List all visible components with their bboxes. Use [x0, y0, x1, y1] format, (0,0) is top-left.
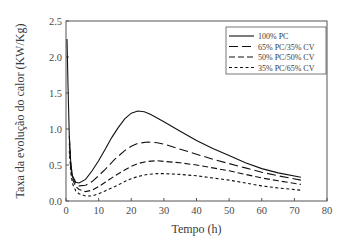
legend-label-3: 35% PC/65% CV — [258, 64, 315, 73]
x-tick-label: 10 — [93, 205, 104, 216]
legend-label-2: 50% PC/50% CV — [258, 53, 315, 62]
legend-label-0: 100% PC — [258, 32, 288, 41]
y-tick-label: 2.0 — [49, 52, 62, 63]
x-tick-label: 70 — [289, 205, 300, 216]
x-tick-label: 60 — [257, 205, 268, 216]
x-axis-label: Tempo (h) — [171, 222, 221, 236]
series-line-3 — [69, 151, 301, 196]
y-tick-label: 1.0 — [49, 124, 62, 135]
heat-evolution-chart: 010203040506070800.00.51.01.52.02.5Tempo… — [0, 0, 350, 250]
y-tick-label: 0.5 — [49, 160, 62, 171]
x-tick-label: 80 — [322, 205, 333, 216]
x-tick-label: 50 — [224, 205, 235, 216]
y-tick-label: 0.0 — [49, 196, 62, 207]
legend-label-1: 65% PC/35% CV — [258, 43, 315, 52]
x-tick-label: 0 — [63, 205, 68, 216]
y-tick-label: 2.5 — [49, 16, 62, 27]
x-tick-label: 20 — [126, 205, 137, 216]
x-tick-label: 40 — [191, 205, 202, 216]
y-tick-label: 1.5 — [49, 88, 62, 99]
x-tick-label: 30 — [159, 205, 170, 216]
y-axis-label: Taxa da evolução do calor (KW/Kg) — [13, 24, 27, 199]
